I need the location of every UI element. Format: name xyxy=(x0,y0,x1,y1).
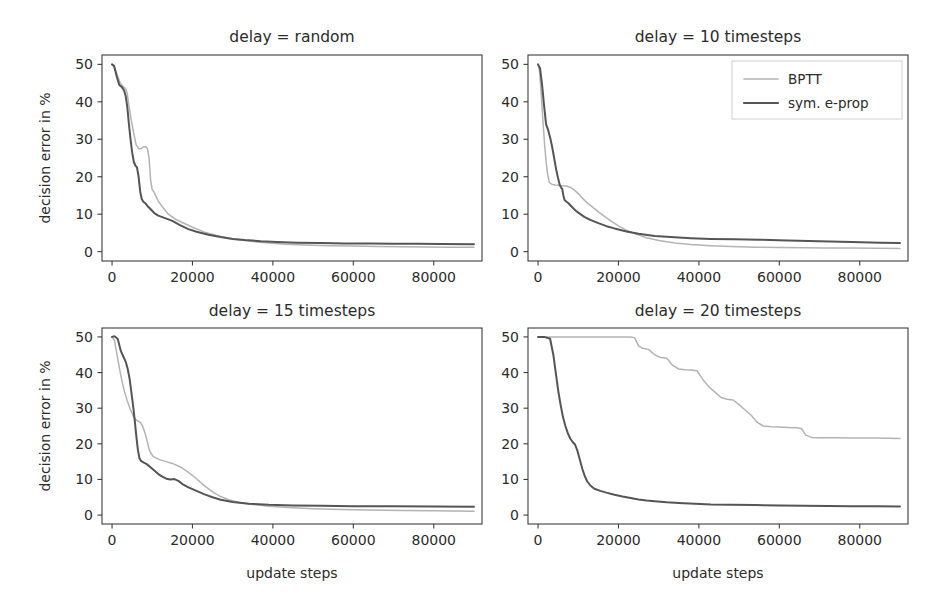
x-tick-label: 60000 xyxy=(757,532,802,548)
x-tick-label: 20000 xyxy=(170,532,215,548)
panel-title: delay = random xyxy=(229,28,354,46)
panel-title: delay = 15 timesteps xyxy=(209,302,375,320)
axes-frame xyxy=(102,55,482,261)
y-tick-label: 40 xyxy=(501,94,519,110)
x-tick-label: 0 xyxy=(534,269,543,285)
y-tick-label: 20 xyxy=(501,169,519,185)
series-line-sym-e-prop xyxy=(538,64,900,243)
x-tick-label: 40000 xyxy=(251,532,296,548)
legend-box xyxy=(732,61,902,119)
axes-frame xyxy=(528,328,908,524)
x-tick-label: 80000 xyxy=(411,269,456,285)
x-tick-label: 40000 xyxy=(677,269,722,285)
legend-label-bptt: BPTT xyxy=(788,71,822,87)
y-axis-label: decision error in % xyxy=(37,92,53,223)
x-tick-label: 20000 xyxy=(170,269,215,285)
x-tick-label: 60000 xyxy=(331,532,376,548)
y-tick-label: 0 xyxy=(510,507,519,523)
y-tick-label: 50 xyxy=(75,329,93,345)
x-tick-label: 60000 xyxy=(757,269,802,285)
axes-frame xyxy=(102,328,482,524)
y-tick-label: 50 xyxy=(501,56,519,72)
series-line-bptt xyxy=(538,337,900,439)
y-tick-label: 40 xyxy=(75,94,93,110)
y-tick-label: 0 xyxy=(84,507,93,523)
panel-title: delay = 20 timesteps xyxy=(635,302,801,320)
y-tick-label: 30 xyxy=(75,400,93,416)
y-tick-label: 50 xyxy=(501,329,519,345)
series-line-bptt xyxy=(112,337,474,511)
x-tick-label: 0 xyxy=(534,532,543,548)
series-line-sym-e-prop xyxy=(538,337,900,507)
y-tick-label: 20 xyxy=(75,169,93,185)
y-tick-label: 10 xyxy=(75,206,93,222)
x-tick-label: 20000 xyxy=(596,532,641,548)
y-axis-label: decision error in % xyxy=(37,360,53,491)
x-tick-label: 40000 xyxy=(251,269,296,285)
x-tick-label: 60000 xyxy=(331,269,376,285)
y-tick-label: 10 xyxy=(501,206,519,222)
y-tick-label: 20 xyxy=(75,436,93,452)
y-tick-label: 10 xyxy=(75,471,93,487)
figure-canvas: delay = random01020304050020000400006000… xyxy=(0,0,947,602)
y-tick-label: 10 xyxy=(501,471,519,487)
x-tick-label: 80000 xyxy=(837,532,882,548)
x-axis-label: update steps xyxy=(672,565,763,581)
axes-frame xyxy=(528,55,908,261)
y-tick-label: 40 xyxy=(501,365,519,381)
x-tick-label: 0 xyxy=(108,269,117,285)
y-tick-label: 40 xyxy=(75,365,93,381)
y-tick-label: 30 xyxy=(75,131,93,147)
legend-label-sym-e-prop: sym. e-prop xyxy=(788,95,869,111)
series-line-sym-e-prop xyxy=(112,64,474,244)
x-tick-label: 80000 xyxy=(411,532,456,548)
y-tick-label: 20 xyxy=(501,436,519,452)
x-tick-label: 40000 xyxy=(677,532,722,548)
x-tick-label: 0 xyxy=(108,532,117,548)
y-tick-label: 30 xyxy=(501,400,519,416)
y-tick-label: 0 xyxy=(510,244,519,260)
y-tick-label: 30 xyxy=(501,131,519,147)
series-line-bptt xyxy=(538,64,900,248)
y-tick-label: 0 xyxy=(84,244,93,260)
series-line-bptt xyxy=(112,64,474,247)
x-tick-label: 80000 xyxy=(837,269,882,285)
series-line-sym-e-prop xyxy=(112,336,474,507)
x-axis-label: update steps xyxy=(246,565,337,581)
y-tick-label: 50 xyxy=(75,56,93,72)
x-tick-label: 20000 xyxy=(596,269,641,285)
panel-title: delay = 10 timesteps xyxy=(635,28,801,46)
